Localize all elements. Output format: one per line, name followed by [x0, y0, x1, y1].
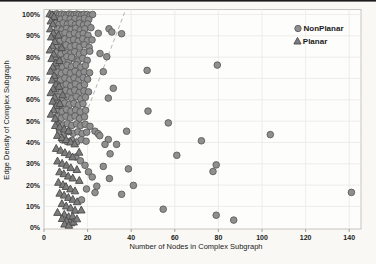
nonplanar-point [97, 132, 104, 139]
nonplanar-point [89, 37, 96, 44]
nonplanar-point [106, 175, 113, 182]
x-axis-title: Number of Nodes in Complex Subgraph [130, 242, 263, 251]
nonplanar-point [83, 138, 90, 145]
nonplanar-point [123, 128, 130, 135]
y-tick-label: 30% [26, 160, 41, 167]
x-tick-label: 100 [256, 234, 268, 241]
y-tick-label: 90% [26, 32, 41, 39]
y-axis-title: Edge Density of Complex Subgraph [2, 60, 11, 179]
y-tick-label: 40% [26, 139, 41, 146]
nonplanar-point [88, 24, 95, 31]
nonplanar-point [83, 186, 90, 193]
nonplanar-point [100, 68, 107, 75]
nonplanar-point [89, 174, 96, 181]
nonplanar-point [87, 48, 94, 55]
nonplanar-point [109, 29, 116, 36]
y-tick-label: 10% [26, 203, 41, 210]
y-tick-label: 60% [26, 96, 41, 103]
nonplanar-point [145, 108, 152, 115]
nonplanar-point [118, 30, 125, 37]
x-tick-label: 140 [343, 234, 355, 241]
nonplanar-point [82, 162, 89, 169]
nonplanar-point [105, 95, 112, 102]
nonplanar-point [80, 100, 87, 107]
nonplanar-point [104, 53, 111, 60]
nonplanar-point [174, 152, 181, 159]
nonplanar-point [86, 69, 93, 76]
x-tick-label: 40 [127, 234, 135, 241]
nonplanar-point [210, 168, 217, 175]
nonplanar-point [160, 206, 167, 213]
nonplanar-point [110, 85, 117, 92]
x-tick-label: 60 [171, 234, 179, 241]
x-tick-label: 80 [215, 234, 223, 241]
nonplanar-point [83, 129, 90, 136]
nonplanar-point [102, 141, 109, 148]
nonplanar-point [82, 107, 89, 114]
nonplanar-point [97, 50, 104, 57]
nonplanar-point [125, 166, 132, 173]
y-tick-label: 80% [26, 54, 41, 61]
nonplanar-point [144, 67, 151, 74]
nonplanar-point [267, 131, 274, 138]
nonplanar-point [213, 162, 220, 169]
nonplanar-point [107, 151, 114, 158]
x-tick-label: 0 [42, 234, 46, 241]
nonplanar-point [113, 141, 120, 148]
nonplanar-point [348, 189, 355, 196]
y-tick-label: 20% [26, 182, 41, 189]
nonplanar-point [213, 212, 220, 219]
top-border-rule [0, 0, 376, 2]
nonplanar-point [198, 138, 205, 145]
nonplanar-point [100, 163, 107, 170]
nonplanar-point [230, 217, 237, 224]
nonplanar-point [68, 54, 75, 61]
legend-nonplanar-label: NonPlanar [304, 24, 344, 33]
figure: 0204060801001201400%10%20%30%40%50%60%70… [0, 0, 376, 264]
y-tick-label: 100% [22, 11, 41, 18]
nonplanar-point [82, 62, 89, 69]
x-tick-label: 120 [300, 234, 312, 241]
y-tick-label: 70% [26, 75, 41, 82]
nonplanar-point [92, 189, 99, 196]
nonplanar-point [118, 191, 125, 198]
nonplanar-point [165, 120, 172, 127]
nonplanar-point [81, 81, 88, 88]
scatter-chart: 0204060801001201400%10%20%30%40%50%60%70… [0, 0, 376, 264]
y-tick-label: 50% [26, 118, 41, 125]
nonplanar-point [81, 114, 88, 121]
x-tick-label: 20 [84, 234, 92, 241]
y-tick-label: 0% [30, 224, 41, 231]
legend-planar-label: Planar [303, 37, 327, 46]
nonplanar-point [214, 62, 221, 69]
nonplanar-point [130, 182, 137, 189]
nonplanar-point [94, 183, 101, 190]
legend-nonplanar-circle-icon [295, 25, 301, 31]
nonplanar-point [95, 30, 102, 37]
nonplanar-point [82, 94, 89, 101]
